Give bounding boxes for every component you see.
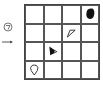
- filled-blob-icon: [82, 6, 99, 23]
- grid-cell[interactable]: [25, 24, 44, 43]
- grid-cell[interactable]: [62, 42, 81, 61]
- grid-cell[interactable]: [81, 42, 100, 61]
- grid-cell[interactable]: [62, 61, 81, 80]
- grid-cell[interactable]: [81, 24, 100, 43]
- grid-cell[interactable]: [81, 5, 100, 24]
- grid-cell[interactable]: [44, 42, 63, 61]
- grid-cell[interactable]: [25, 5, 44, 24]
- grid-cell[interactable]: [62, 24, 81, 43]
- grid-cell[interactable]: [44, 61, 63, 80]
- outline-balloon-icon: [26, 62, 43, 79]
- puzzle-grid: [24, 4, 100, 80]
- grid-cell[interactable]: [62, 5, 81, 24]
- grid-cell[interactable]: [44, 5, 63, 24]
- outline-triangle-icon: [63, 25, 80, 42]
- filled-triangle-right-icon: [45, 43, 62, 60]
- grid-cell[interactable]: [44, 24, 63, 43]
- arrow-right-icon: [2, 40, 14, 44]
- grid-cell[interactable]: [81, 61, 100, 80]
- rotate-icon: [3, 22, 13, 32]
- grid-cell[interactable]: [25, 42, 44, 61]
- grid-cell[interactable]: [25, 61, 44, 80]
